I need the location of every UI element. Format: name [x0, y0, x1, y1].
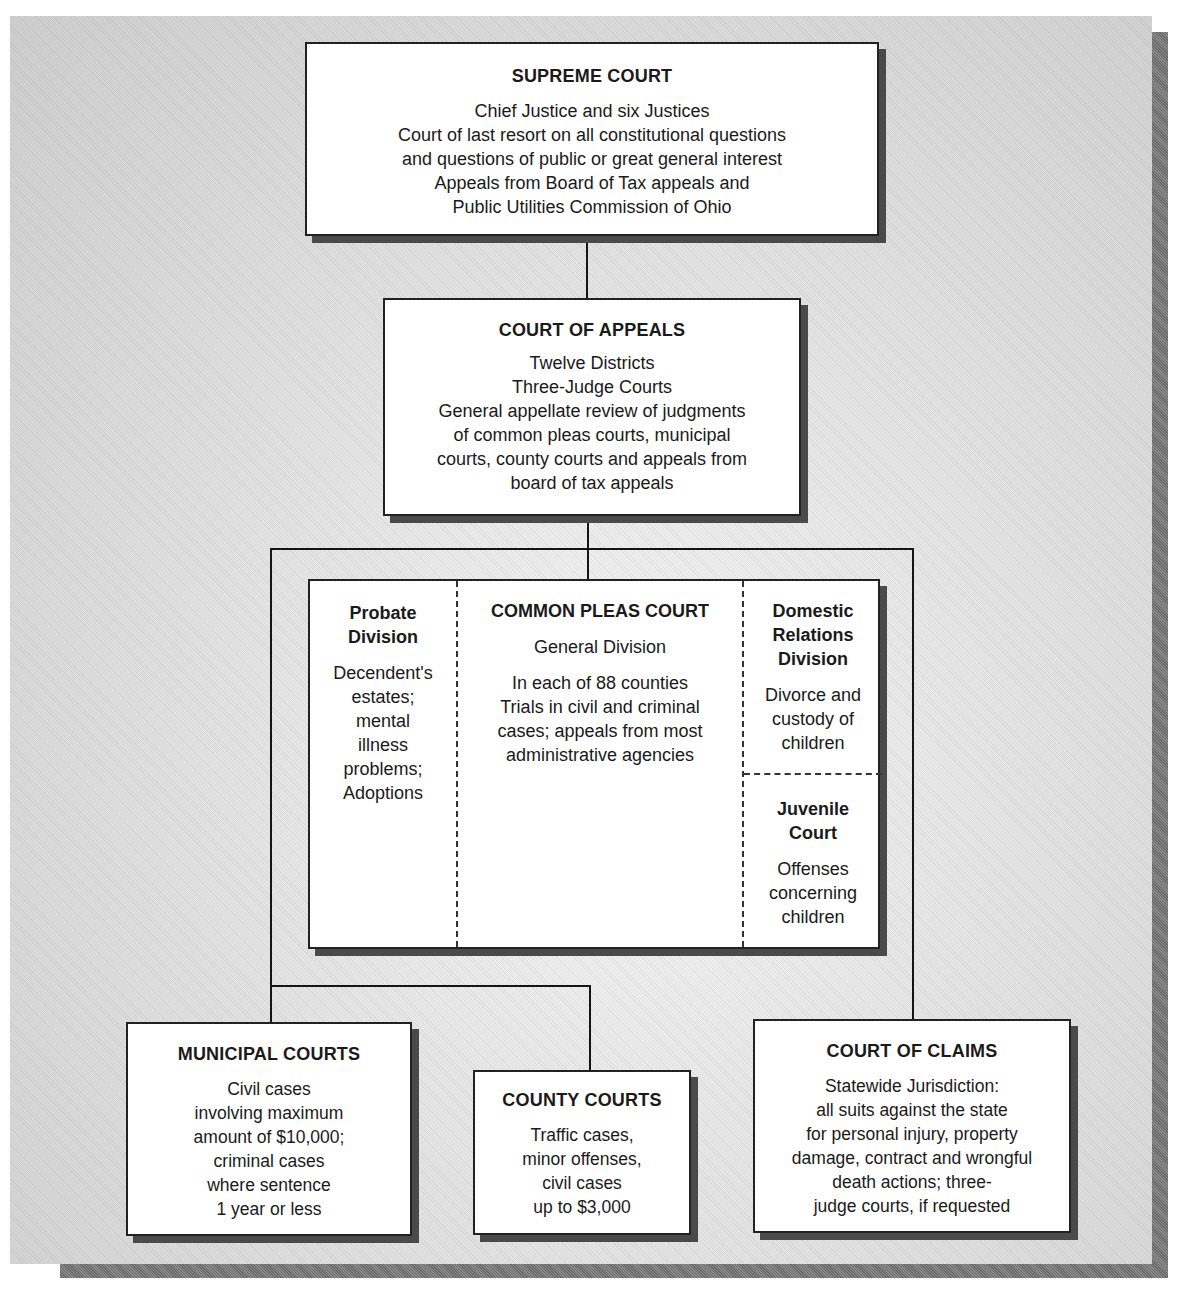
county-courts-description: Traffic cases, minor offenses, civil cas… [475, 1123, 689, 1219]
right-divisions: Domestic Relations Division Divorce and … [742, 581, 882, 947]
text-line: Decendent's [310, 661, 456, 685]
text-line: Trials in civil and criminal [458, 695, 742, 719]
text-line: cases; appeals from most [458, 719, 742, 743]
supreme-court-box: SUPREME COURT Chief Justice and six Just… [305, 42, 879, 236]
county-courts-title: COUNTY COURTS [475, 1090, 689, 1111]
connector-horizontal-top [270, 548, 914, 550]
common-pleas-court-box: Probate Division Decendent's estates; me… [308, 579, 880, 949]
text-line: General appellate review of judgments [385, 399, 799, 423]
text-line: of common pleas courts, municipal [385, 423, 799, 447]
text-line: damage, contract and wrongful [755, 1146, 1069, 1170]
text-line: Twelve Districts [385, 351, 799, 375]
text-line: amount of $10,000; [128, 1125, 410, 1149]
text-line: Three-Judge Courts [385, 375, 799, 399]
text-line: minor offenses, [475, 1147, 689, 1171]
text-line: Divorce and [744, 683, 882, 707]
text-line: Chief Justice and six Justices [307, 99, 877, 123]
text-line: Public Utilities Commission of Ohio [307, 195, 877, 219]
text-line: Division [744, 647, 882, 671]
supreme-court-title: SUPREME COURT [307, 66, 877, 87]
supreme-court-description: Chief Justice and six Justices Court of … [307, 99, 877, 219]
text-line: mental [310, 709, 456, 733]
text-line: civil cases [475, 1171, 689, 1195]
text-line: 1 year or less [128, 1197, 410, 1221]
juvenile-court: Juvenile Court Offenses concerning child… [744, 775, 882, 929]
municipal-courts-title: MUNICIPAL COURTS [128, 1044, 410, 1065]
text-line: criminal cases [128, 1149, 410, 1173]
juvenile-court-title: Juvenile Court [744, 797, 882, 845]
text-line: Traffic cases, [475, 1123, 689, 1147]
domestic-relations-title: Domestic Relations Division [744, 599, 882, 671]
text-line: where sentence [128, 1173, 410, 1197]
text-line: Appeals from Board of Tax appeals and [307, 171, 877, 195]
general-division-description: In each of 88 counties Trials in civil a… [458, 671, 742, 767]
text-line: In each of 88 counties [458, 671, 742, 695]
text-line: involving maximum [128, 1101, 410, 1125]
court-of-appeals-title: COURT OF APPEALS [385, 320, 799, 341]
connector-right-vertical [912, 548, 914, 1019]
text-line: judge courts, if requested [755, 1194, 1069, 1218]
text-line: problems; [310, 757, 456, 781]
text-line: Division [310, 625, 456, 649]
text-line: all suits against the state [755, 1098, 1069, 1122]
common-pleas-title: COMMON PLEAS COURT [458, 599, 742, 623]
court-of-appeals-description: Twelve Districts Three-Judge Courts Gene… [385, 351, 799, 495]
text-line: death actions; three- [755, 1170, 1069, 1194]
text-line: Court [744, 821, 882, 845]
text-line: Offenses [744, 857, 882, 881]
probate-division: Probate Division Decendent's estates; me… [310, 581, 456, 947]
text-line: board of tax appeals [385, 471, 799, 495]
text-line: Adoptions [310, 781, 456, 805]
text-line: Juvenile [744, 797, 882, 821]
text-line: administrative agencies [458, 743, 742, 767]
court-of-claims-box: COURT OF CLAIMS Statewide Jurisdiction: … [753, 1019, 1071, 1233]
text-line: custody of [744, 707, 882, 731]
text-line: Court of last resort on all constitution… [307, 123, 877, 147]
text-line: Probate [310, 601, 456, 625]
court-of-claims-description: Statewide Jurisdiction: all suits agains… [755, 1074, 1069, 1218]
text-line: and questions of public or great general… [307, 147, 877, 171]
probate-division-title: Probate Division [310, 601, 456, 649]
municipal-courts-box: MUNICIPAL COURTS Civil cases involving m… [126, 1022, 412, 1236]
general-division: COMMON PLEAS COURT General Division In e… [456, 581, 742, 947]
domestic-relations-division: Domestic Relations Division Divorce and … [744, 581, 882, 775]
text-line: courts, county courts and appeals from [385, 447, 799, 471]
text-line: concerning [744, 881, 882, 905]
court-of-appeals-box: COURT OF APPEALS Twelve Districts Three-… [383, 298, 801, 516]
connector-county-horizontal [270, 985, 591, 987]
domestic-relations-description: Divorce and custody of children [744, 683, 882, 755]
text-line: illness [310, 733, 456, 757]
juvenile-court-description: Offenses concerning children [744, 857, 882, 929]
text-line: up to $3,000 [475, 1195, 689, 1219]
municipal-courts-description: Civil cases involving maximum amount of … [128, 1077, 410, 1221]
text-line: children [744, 731, 882, 755]
connector-supreme-appeals [586, 236, 588, 298]
text-line: for personal injury, property [755, 1122, 1069, 1146]
probate-division-description: Decendent's estates; mental illness prob… [310, 661, 456, 805]
text-line: estates; [310, 685, 456, 709]
text-line: Domestic [744, 599, 882, 623]
text-line: children [744, 905, 882, 929]
county-courts-box: COUNTY COURTS Traffic cases, minor offen… [473, 1070, 691, 1235]
general-division-subtitle: General Division [458, 635, 742, 659]
text-line: Civil cases [128, 1077, 410, 1101]
text-line: Statewide Jurisdiction: [755, 1074, 1069, 1098]
court-of-claims-title: COURT OF CLAIMS [755, 1041, 1069, 1062]
connector-left-vertical [270, 548, 272, 1022]
connector-county-vertical [589, 985, 591, 1070]
text-line: Relations [744, 623, 882, 647]
